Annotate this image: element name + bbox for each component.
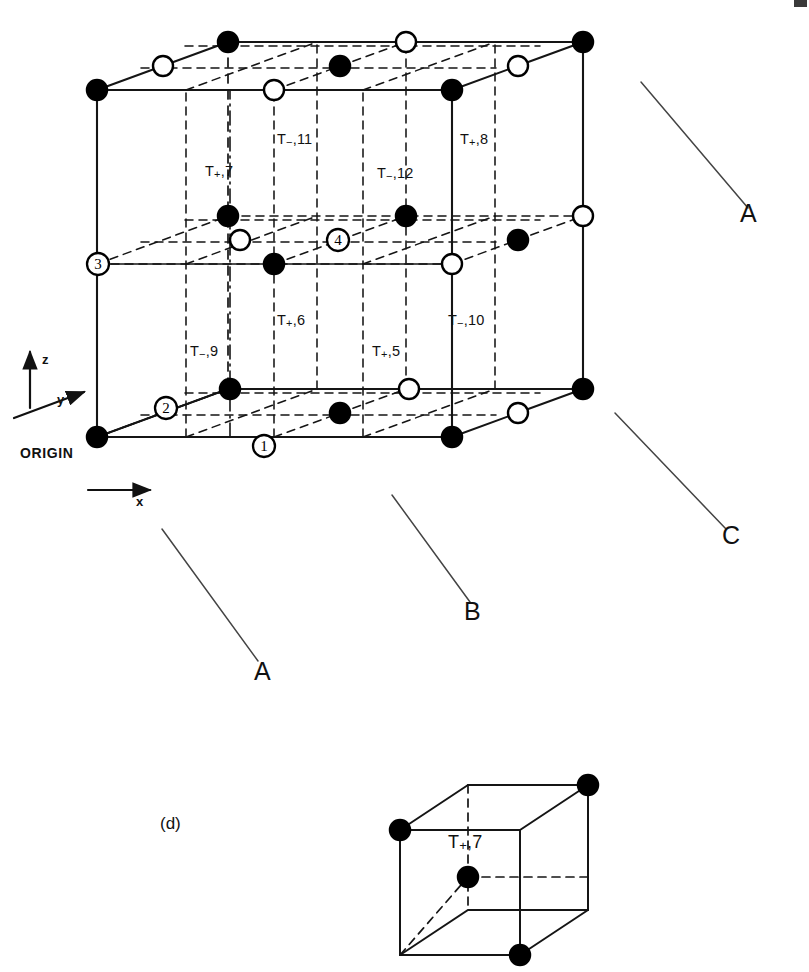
site-label-sign: − bbox=[286, 136, 293, 148]
site-label-sign: + bbox=[286, 317, 293, 329]
site-label-base: T bbox=[448, 312, 457, 328]
origin-label: ORIGIN bbox=[20, 445, 73, 461]
atom-filled bbox=[330, 403, 351, 424]
site-label-sign: − bbox=[386, 170, 393, 182]
atom-open bbox=[153, 56, 173, 76]
marker-3-label: 3 bbox=[94, 256, 102, 272]
atom-filled bbox=[87, 427, 108, 448]
marker-2-label: 2 bbox=[162, 400, 170, 416]
site-label-base: T bbox=[460, 131, 469, 147]
atom-filled bbox=[218, 206, 239, 227]
site-label-index: ,8 bbox=[476, 131, 489, 147]
atom-open bbox=[508, 56, 528, 76]
detail-atom-filled bbox=[390, 820, 411, 841]
figure-root: 1 2 3 4 bbox=[0, 0, 809, 972]
site-T-minus-9: T−,9 bbox=[190, 343, 218, 360]
atom-filled bbox=[330, 56, 351, 77]
atom-open bbox=[399, 379, 419, 399]
site-label-index: ,7 bbox=[221, 163, 234, 179]
detail-cube-edge-tl bbox=[400, 785, 468, 830]
marker-4-label: 4 bbox=[334, 232, 342, 248]
letter-A-right: A bbox=[740, 199, 757, 228]
site-T-plus-7: T+,7 bbox=[205, 163, 233, 180]
axis-triad bbox=[14, 352, 150, 490]
atom-filled bbox=[264, 254, 285, 275]
site-label-index: ,5 bbox=[388, 343, 401, 359]
atom-open bbox=[230, 230, 250, 250]
site-label-base: T bbox=[277, 131, 286, 147]
site-label-base: T bbox=[377, 165, 386, 181]
site-T-minus-10: T−,10 bbox=[448, 312, 484, 329]
atom-filled bbox=[442, 427, 463, 448]
site-label-sign: − bbox=[457, 317, 464, 329]
atom-open bbox=[442, 254, 462, 274]
detail-cube-edge-tr bbox=[520, 785, 588, 830]
site-label-index: ,9 bbox=[206, 343, 219, 359]
leader-line-A-bottom bbox=[162, 529, 258, 661]
atom-open bbox=[396, 32, 416, 52]
z-axis-label: z bbox=[42, 352, 49, 367]
atom-open bbox=[508, 403, 528, 423]
atom-filled bbox=[573, 379, 594, 400]
letter-B-bottom: B bbox=[464, 597, 481, 626]
site-label-index: ,6 bbox=[293, 312, 306, 328]
detail-label-sign: + bbox=[459, 838, 467, 853]
leader-line-B-bottom bbox=[392, 495, 470, 602]
atom-filled bbox=[87, 80, 108, 101]
site-label-sign: + bbox=[214, 168, 221, 180]
atom-open bbox=[573, 206, 593, 226]
site-label-base: T bbox=[372, 343, 381, 359]
atom-filled bbox=[442, 80, 463, 101]
leader-line-C-right bbox=[615, 413, 726, 529]
detail-site-T-plus-7: T+,7 bbox=[448, 832, 482, 853]
site-T-plus-8: T+,8 bbox=[460, 131, 488, 148]
unit-cell-diagram: 1 2 3 4 bbox=[0, 0, 809, 972]
site-label-index: ,11 bbox=[293, 131, 313, 147]
site-T-plus-5: T+,5 bbox=[372, 343, 400, 360]
letter-C-right: C bbox=[722, 521, 740, 550]
y-axis-arrow bbox=[14, 392, 84, 418]
atom-filled bbox=[573, 32, 594, 53]
detail-cube-group bbox=[390, 775, 599, 966]
atom-open bbox=[264, 80, 284, 100]
site-T-minus-12: T−,12 bbox=[377, 165, 413, 182]
letter-A-bottom: A bbox=[254, 657, 271, 686]
y-axis-label: y bbox=[57, 392, 64, 407]
detail-label-base: T bbox=[448, 832, 459, 852]
marker-1-label: 1 bbox=[260, 438, 268, 454]
atom-filled bbox=[396, 206, 417, 227]
site-label-sign: − bbox=[199, 348, 206, 360]
site-label-sign: + bbox=[469, 136, 476, 148]
site-label-index: ,10 bbox=[464, 312, 485, 328]
x-axis-label: x bbox=[136, 494, 143, 509]
site-label-index: ,12 bbox=[393, 165, 414, 181]
detail-cube-back-face-solid bbox=[468, 785, 588, 910]
detail-atom-filled bbox=[458, 867, 479, 888]
atom-filled bbox=[220, 379, 241, 400]
atom-filled bbox=[218, 32, 239, 53]
leader-lines bbox=[162, 82, 748, 661]
panel-id-label: (d) bbox=[160, 814, 181, 834]
leader-line-A-right bbox=[641, 82, 748, 208]
detail-label-index: ,7 bbox=[467, 832, 482, 852]
detail-cube-edge-br bbox=[520, 910, 588, 955]
detail-cube-bottom-right-edges bbox=[400, 910, 588, 955]
site-label-base: T bbox=[205, 163, 214, 179]
site-label-sign: + bbox=[381, 348, 388, 360]
site-T-minus-11: T−,11 bbox=[277, 131, 312, 148]
site-T-plus-6: T+,6 bbox=[277, 312, 305, 329]
detail-atom-filled bbox=[578, 775, 599, 796]
detail-atom-filled bbox=[510, 945, 531, 966]
site-label-base: T bbox=[277, 312, 286, 328]
atom-filled bbox=[508, 230, 529, 251]
site-label-base: T bbox=[190, 343, 199, 359]
